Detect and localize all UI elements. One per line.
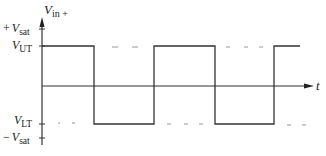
x-axis-arrow-icon	[304, 84, 314, 89]
label-vlt: VLT	[14, 113, 32, 129]
square-waveform	[42, 46, 300, 124]
square-wave-diagram: Vin + +Vsat VUT VLT −Vsat t	[0, 0, 326, 156]
y-axis-label: Vin +	[44, 2, 68, 19]
label-plus-vsat: +Vsat	[3, 21, 30, 37]
y-axis-arrow-icon	[40, 17, 45, 27]
label-minus-vsat: −Vsat	[3, 130, 30, 146]
x-axis-label: t	[316, 78, 320, 93]
label-vut: VUT	[12, 38, 32, 54]
